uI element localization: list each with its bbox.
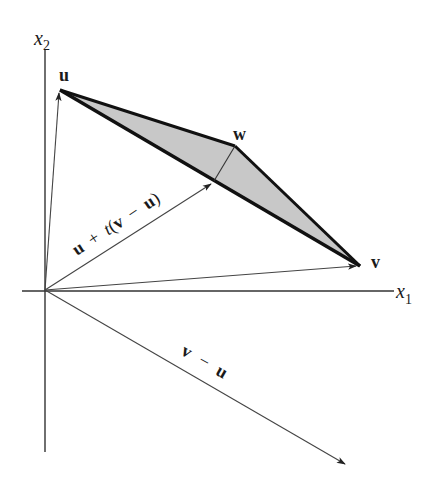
svg-text:u + t(v −: u + t(v − u) [68, 188, 164, 260]
point-w-label: w [233, 124, 246, 144]
vector-diagram: x2 x1 u w v u + t(v − u) v − u [0, 0, 439, 486]
edge-w-v [235, 146, 360, 266]
svg-text:v − u: v − u [178, 340, 231, 382]
vector-u [45, 93, 59, 290]
point-v-label: v [371, 252, 380, 272]
vector-v [45, 266, 356, 290]
vector-u-plus-t-v-minus-u [45, 184, 211, 290]
x2-axis-label: x2 [33, 27, 50, 53]
vector-v-minus-u [45, 290, 345, 464]
label-u-plus-t-v-minus-u: u + t(v − u) [68, 188, 164, 260]
x1-axis-label: x1 [395, 280, 412, 307]
point-u-label: u [59, 65, 69, 85]
label-v-minus-u: v − u [178, 340, 231, 382]
